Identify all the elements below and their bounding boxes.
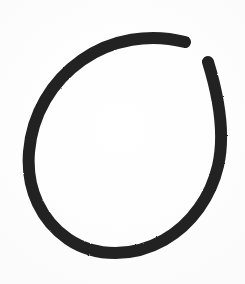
- ink-layer: [0, 0, 245, 284]
- open-circle-drawing: [0, 0, 245, 284]
- open-circle-stroke: [29, 38, 221, 253]
- drawing-canvas: [0, 0, 245, 284]
